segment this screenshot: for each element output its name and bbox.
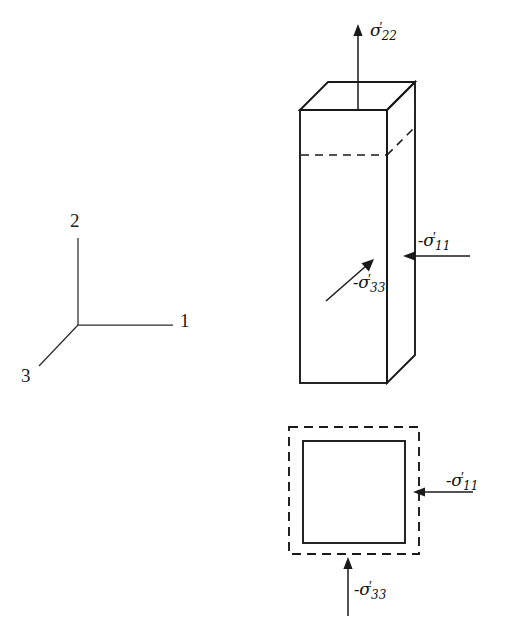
sigma22-subscript: 22: [382, 29, 397, 43]
three-dimensional-prism: [300, 82, 415, 383]
coordinate-triad: [39, 238, 173, 366]
sigma33-cs-subscript: 33: [371, 588, 386, 602]
axis-label-2: 2: [70, 211, 80, 230]
prism-right-face-fill: [387, 82, 415, 383]
axis-label-3: 3: [21, 366, 31, 385]
cross-section-plan-view: [289, 427, 419, 554]
axis-label-1: 1: [180, 311, 190, 330]
figure-root: 1 2 3 σ′22 -σ′11 -σ′33 -σ′11 -σ′33: [0, 0, 505, 637]
axis-3-line: [39, 325, 78, 366]
sigma11-cs-subscript: 11: [463, 479, 478, 493]
stress-label-sigma11-prism: -σ′11: [418, 232, 453, 249]
sigma11-prism-subscript: 11: [435, 239, 450, 253]
stress-label-sigma22: σ′22: [370, 22, 400, 39]
stress-label-sigma33-prism: -σ′33: [353, 274, 388, 291]
prism-front-face-fill: [300, 110, 387, 383]
stress-label-sigma33-cross-section: -σ′33: [354, 581, 389, 598]
stress-label-sigma11-cross-section: -σ′11: [446, 472, 481, 489]
figure-canvas: [0, 0, 505, 637]
sigma33-prism-subscript: 33: [370, 281, 385, 295]
arrow-sigma33-cross-section: [343, 557, 352, 616]
arrow-sigma22-head: [353, 24, 362, 36]
arrow-sigma33-cs-head: [343, 557, 352, 569]
cross-section-solid-square-fill: [303, 441, 405, 543]
